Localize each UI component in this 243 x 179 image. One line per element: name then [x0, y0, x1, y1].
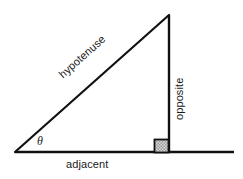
theta-angle-label: θ: [37, 135, 43, 147]
opposite-label: opposite: [174, 78, 185, 120]
adjacent-label: adjacent: [66, 159, 108, 170]
triangle-diagram: hypotenuse opposite adjacent θ: [0, 0, 243, 179]
triangle-figure: [0, 0, 243, 179]
hypotenuse-line: [15, 15, 169, 152]
right-angle-marker-icon: [155, 140, 169, 153]
